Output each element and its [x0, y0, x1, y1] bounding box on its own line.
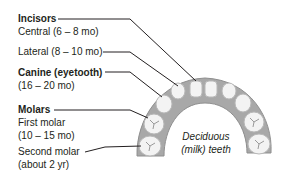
- label-canine-age: (16 – 20 mo): [18, 80, 75, 92]
- leader-first-molar: [54, 110, 148, 118]
- label-first-molar: First molar: [18, 117, 65, 129]
- central-incisor-right: [205, 81, 217, 97]
- canine-right: [235, 94, 251, 112]
- label-incisors: Incisors: [18, 13, 56, 25]
- arch-caption-line1: Deciduous: [176, 131, 236, 143]
- lateral-incisor-right: [222, 83, 236, 99]
- label-second-molar: Second molar: [18, 146, 80, 158]
- central-incisor-left: [190, 81, 202, 97]
- label-canine: Canine (eyetooth): [18, 67, 102, 79]
- label-molars: Molars: [18, 104, 50, 116]
- label-first-molar-age: (10 – 15 mo): [18, 130, 75, 142]
- leader-canine: [105, 72, 162, 97]
- label-central: Central (6 – 8 mo): [18, 26, 99, 38]
- arch-caption-line2: (milk) teeth: [176, 144, 236, 156]
- leader-lateral: [103, 52, 178, 86]
- canine-left: [156, 95, 172, 113]
- label-lateral: Lateral (8 – 10 mo): [18, 46, 103, 58]
- leader-second-molar: [85, 146, 141, 152]
- label-second-molar-age: (about 2 yr): [18, 159, 69, 171]
